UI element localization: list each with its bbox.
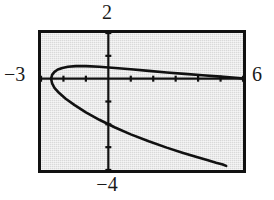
plot-frame — [38, 30, 246, 173]
parabola-curve — [51, 66, 243, 166]
y-axis-min-label: −4 — [0, 174, 214, 194]
x-axis-max-label: 6 — [252, 64, 262, 84]
plot-canvas — [41, 33, 243, 170]
curve-upper-branch — [51, 66, 243, 79]
calculator-graph-screenshot: 2 −3 6 −4 — [0, 0, 274, 200]
curve-lower-branch — [51, 79, 226, 166]
x-axis-min-label: −3 — [4, 64, 25, 84]
y-axis-max-label: 2 — [0, 2, 214, 22]
